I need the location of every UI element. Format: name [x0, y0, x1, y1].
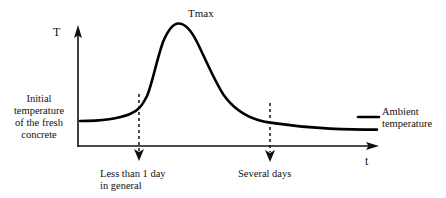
x-axis-label: t: [365, 156, 368, 168]
initial-temperature-label: Initial temperature of the fresh concret…: [2, 93, 76, 141]
y-axis-label: T: [53, 27, 60, 39]
ambient-temperature-label: Ambient temperature: [382, 106, 446, 130]
temperature-evolution-figure: T t Tmax Initial temperature of the fres…: [0, 0, 446, 198]
marker-line-2: [265, 103, 275, 162]
x-axis: [78, 142, 379, 150]
temperature-curve: [80, 23, 377, 129]
marker-1-label: Less than 1 day in general: [100, 168, 166, 191]
peak-temperature-label: Tmax: [188, 8, 214, 20]
marker-2-label: Several days: [238, 168, 291, 180]
